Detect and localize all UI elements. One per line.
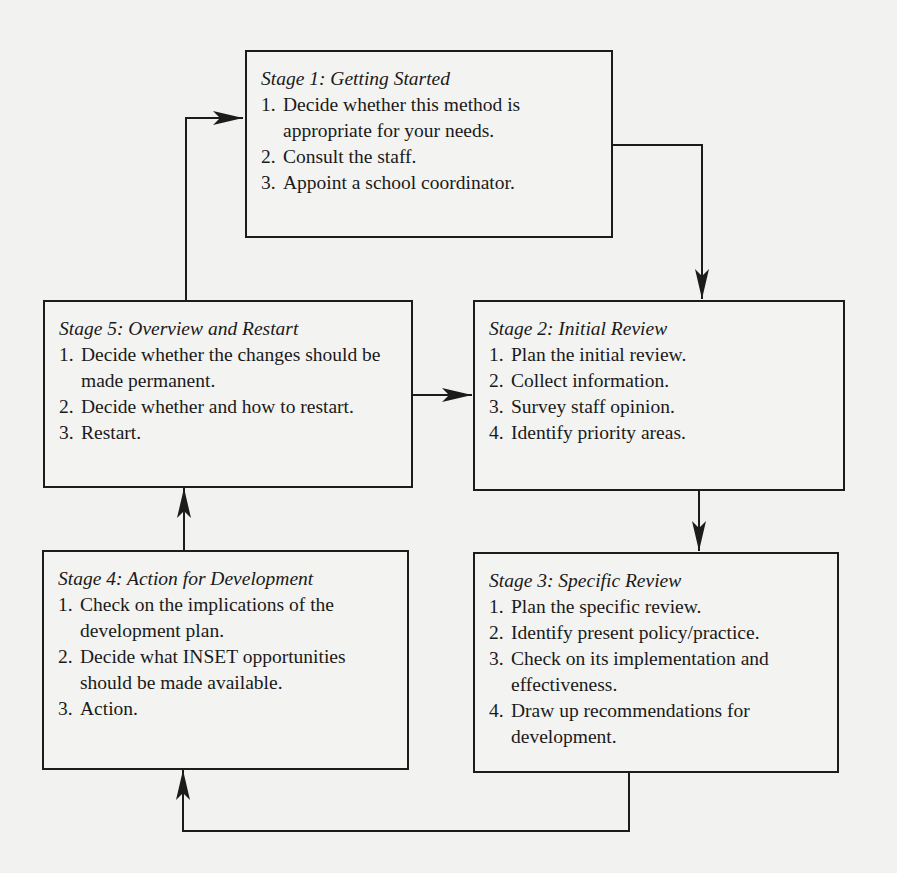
list-item: 3.Appoint a school coordinator. — [261, 170, 601, 196]
list-item: 2.Decide what INSET opportunities should… — [58, 644, 397, 696]
stage2-list: 1.Plan the initial review. 2.Collect inf… — [489, 342, 833, 446]
arrow-stage5-to-stage1 — [186, 118, 243, 300]
list-item: 1.Decide whether the changes should be m… — [59, 342, 401, 394]
list-item: 2.Consult the staff. — [261, 144, 601, 170]
stage1-box: Stage 1: Getting Started 1.Decide whethe… — [245, 50, 613, 238]
stage4-title: Stage 4: Action for Development — [58, 566, 397, 592]
stage4-list: 1.Check on the implications of the devel… — [58, 592, 397, 722]
stage5-list: 1.Decide whether the changes should be m… — [59, 342, 401, 446]
stage1-title: Stage 1: Getting Started — [261, 66, 601, 92]
list-item: 3.Survey staff opinion. — [489, 394, 833, 420]
list-item: 1.Plan the specific review. — [489, 594, 827, 620]
arrow-stage3-to-stage4 — [183, 770, 629, 831]
stage2-title: Stage 2: Initial Review — [489, 316, 833, 342]
stage5-box: Stage 5: Overview and Restart 1.Decide w… — [43, 300, 413, 488]
list-item: 2.Identify present policy/practice. — [489, 620, 827, 646]
stage3-title: Stage 3: Specific Review — [489, 568, 827, 594]
list-item: 1.Check on the implications of the devel… — [58, 592, 397, 644]
list-item: 3.Check on its implementation and effect… — [489, 646, 827, 698]
list-item: 3.Action. — [58, 696, 397, 722]
stage3-box: Stage 3: Specific Review 1.Plan the spec… — [473, 552, 839, 773]
list-item: 2.Decide whether and how to restart. — [59, 394, 401, 420]
stage1-list: 1.Decide whether this method is appropri… — [261, 92, 601, 196]
stage2-box: Stage 2: Initial Review 1.Plan the initi… — [473, 300, 845, 491]
list-item: 2.Collect information. — [489, 368, 833, 394]
list-item: 3.Restart. — [59, 420, 401, 446]
list-item: 1.Plan the initial review. — [489, 342, 833, 368]
list-item: 4.Identify priority areas. — [489, 420, 833, 446]
stage3-list: 1.Plan the specific review. 2.Identify p… — [489, 594, 827, 750]
stage4-box: Stage 4: Action for Development 1.Check … — [42, 550, 409, 770]
list-item: 4.Draw up recommendations for developmen… — [489, 698, 827, 750]
list-item: 1.Decide whether this method is appropri… — [261, 92, 601, 144]
stage5-title: Stage 5: Overview and Restart — [59, 316, 401, 342]
arrow-stage1-to-stage2 — [612, 145, 702, 299]
